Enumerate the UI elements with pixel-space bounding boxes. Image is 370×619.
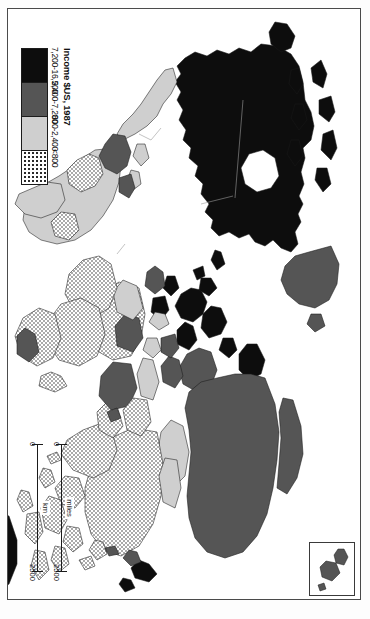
legend-label-1: 2,400-7,200 [50, 81, 60, 115]
legend-swatch-2 [21, 116, 48, 151]
scale-unit-miles: miles [65, 497, 74, 519]
new-zealand-inset [309, 542, 355, 596]
scale-min-km: 0 [28, 442, 37, 446]
legend-label-0: 7,200-16,500 [50, 47, 60, 81]
scale-bar-miles: 0 2500 miles [49, 444, 73, 572]
legend-item-3[interactable]: <800 [21, 150, 60, 184]
rotated-map-stage: Income $US, 1987 7,200-16,500 2,400-7,20… [7, 8, 361, 600]
legend-title: Income $US, 1987 [62, 48, 73, 244]
legend-swatch-row: 7,200-16,500 2,400-7,200 800-2,400 <800 [21, 48, 60, 244]
legend: Income $US, 1987 7,200-16,500 2,400-7,20… [21, 48, 73, 244]
new-zealand-shape [310, 543, 354, 595]
legend-swatch-3 [21, 150, 48, 185]
legend-item-0[interactable]: 7,200-16,500 [21, 48, 60, 82]
scale-bars: 0 2500 miles 0 2500 km [25, 444, 73, 572]
scale-max-km: 2500 [28, 564, 37, 581]
figure-page: Income $US, 1987 7,200-16,500 2,400-7,20… [0, 0, 370, 619]
scale-line-km [37, 444, 38, 572]
map-frame: Income $US, 1987 7,200-16,500 2,400-7,20… [7, 8, 361, 600]
scale-min-miles: 0 [52, 442, 61, 446]
scale-line-miles [61, 444, 62, 572]
scale-unit-km: km [41, 501, 50, 515]
legend-item-2[interactable]: 800-2,400 [21, 116, 60, 150]
legend-swatch-1 [21, 82, 48, 117]
scale-bar-km: 0 2500 km [25, 444, 49, 572]
legend-swatch-0 [21, 48, 48, 83]
scale-max-miles: 2500 [52, 564, 61, 581]
legend-label-2: 800-2,400 [50, 115, 60, 149]
legend-item-1[interactable]: 2,400-7,200 [21, 82, 60, 116]
legend-label-3: <800 [50, 149, 60, 183]
